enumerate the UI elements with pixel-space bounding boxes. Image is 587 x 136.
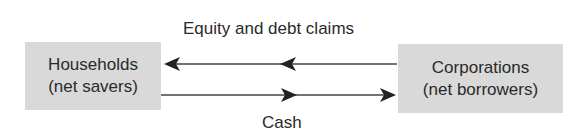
cash-arrow-icon — [161, 88, 396, 102]
claims-arrow-icon — [164, 57, 397, 71]
flow-arrows — [0, 0, 587, 136]
